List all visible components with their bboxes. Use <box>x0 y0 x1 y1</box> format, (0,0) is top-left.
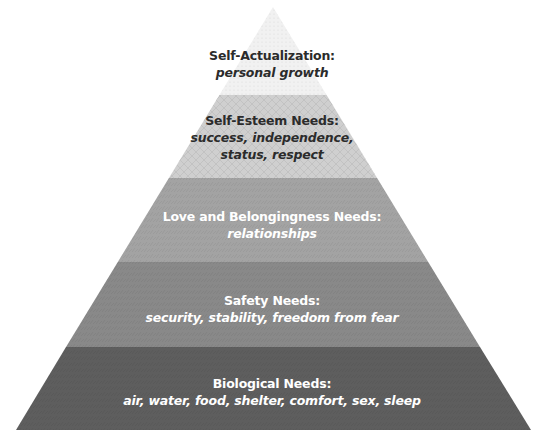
layer-description: status, respect <box>0 146 544 163</box>
layer-description: relationships <box>0 225 544 242</box>
layer-title: Love and Belongingness Needs: <box>0 208 544 225</box>
layer-title: Biological Needs: <box>0 375 544 392</box>
layer-description: personal growth <box>0 64 544 81</box>
label-self-esteem: Self-Esteem Needs: success, independence… <box>0 112 544 163</box>
layer-description: success, independence, <box>0 129 544 146</box>
label-safety: Safety Needs: security, stability, freed… <box>0 292 544 326</box>
layer-description: security, stability, freedom from fear <box>0 309 544 326</box>
layer-title: Self-Actualization: <box>0 47 544 64</box>
label-love-belonging: Love and Belongingness Needs: relationsh… <box>0 208 544 242</box>
layer-title: Self-Esteem Needs: <box>0 112 544 129</box>
layer-title: Safety Needs: <box>0 292 544 309</box>
label-self-actualization: Self-Actualization: personal growth <box>0 47 544 81</box>
label-biological: Biological Needs: air, water, food, shel… <box>0 375 544 409</box>
layer-description: air, water, food, shelter, comfort, sex,… <box>0 392 544 409</box>
